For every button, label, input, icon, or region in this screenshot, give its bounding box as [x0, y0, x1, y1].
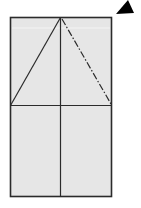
- origami-diagram: [0, 0, 141, 208]
- turn-over-arrow-icon: [116, 0, 134, 14]
